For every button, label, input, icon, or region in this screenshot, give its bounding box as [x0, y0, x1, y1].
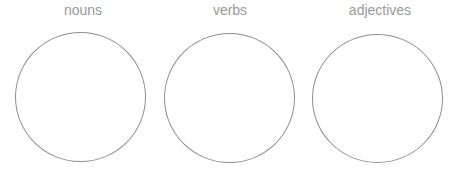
- label-verbs: verbs: [170, 2, 290, 18]
- circle-nouns[interactable]: [15, 32, 146, 162]
- label-nouns: nouns: [23, 2, 143, 18]
- label-adjectives: adjectives: [320, 2, 440, 18]
- circle-verbs[interactable]: [164, 33, 295, 163]
- circle-adjectives[interactable]: [312, 34, 443, 163]
